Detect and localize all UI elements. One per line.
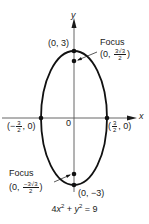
- top-vertex-point: [72, 49, 77, 54]
- lower-focus-point: [72, 172, 77, 177]
- lower-focus-leader-arrow-icon: [66, 175, 71, 179]
- left-vertex-point: [39, 116, 44, 121]
- upper-focus-coords: (0, 3√32): [100, 48, 130, 61]
- right-vertex-label: (32, 0): [108, 120, 131, 133]
- origin-label: 0: [66, 118, 71, 128]
- upper-focus-fraction: 3√32: [114, 48, 126, 61]
- upper-focus-word: Focus: [100, 37, 125, 47]
- lower-focus-word: Focus: [9, 168, 34, 178]
- x-axis-label: x: [139, 111, 144, 121]
- lower-focus-coords: (0, −3√32): [9, 181, 43, 194]
- upper-focus-leader-arrow-icon: [77, 57, 82, 61]
- bottom-vertex-label: (0, −3): [78, 188, 104, 198]
- top-vertex-label: (0, 3): [48, 38, 69, 48]
- left-vertex-label: (−32, 0): [7, 120, 36, 133]
- y-axis-label: y: [71, 10, 76, 20]
- equation-caption: 4x2 + y2 = 9: [0, 203, 149, 214]
- bottom-vertex-point: [72, 183, 77, 188]
- lower-focus-fraction: −3√32: [23, 181, 38, 194]
- upper-focus-point: [72, 59, 77, 64]
